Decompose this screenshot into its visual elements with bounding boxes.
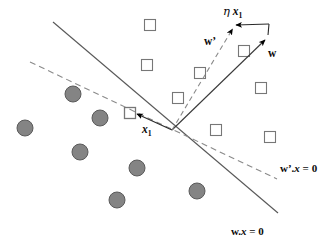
label-x1: x1 [142,124,152,137]
x1-subscript: 1 [148,129,152,138]
square-point [211,125,222,136]
x-subscript: 1 [239,11,243,20]
perceptron-update-figure: η x1 w’ w x1 w’.x = 0 w.x = 0 [0,0,334,250]
circle-point [189,183,205,199]
square-point [239,46,250,57]
label-eta-x1: η x1 [223,6,242,19]
solid-decision-boundary [53,22,278,213]
square-point [173,93,184,104]
square-point [145,20,156,31]
circle-point [72,144,88,160]
circle-point [129,160,145,176]
square-point [142,60,153,71]
label-w-prime: w’ [204,36,216,48]
figure-canvas [0,0,334,250]
wp-equals: = 0 [300,162,317,174]
circle-point [109,192,125,208]
circle-points-group [17,86,205,208]
wp-vector: w’ [280,162,292,174]
label-w-dot-x-equals-zero: w.x = 0 [231,226,264,237]
label-w-prime-dot-x-equals-zero: w’.x = 0 [280,163,317,174]
square-point [265,132,276,143]
circle-point [17,120,33,136]
circle-point [92,110,108,126]
vector-w [172,40,265,130]
dashed-decision-boundary [30,62,277,179]
vector-eta-x1 [268,24,269,35]
square-point [256,83,267,94]
eta-symbol: η [223,4,230,18]
w-equals: = 0 [247,225,264,237]
circle-point [65,86,81,102]
label-w: w [268,48,276,60]
vector-eta-x1-arrow [236,24,269,25]
